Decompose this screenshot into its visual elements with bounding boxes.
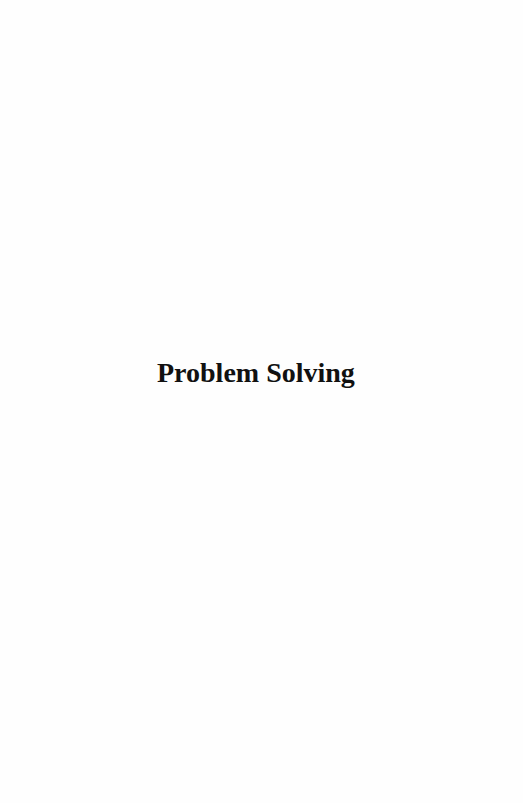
section-title: Problem Solving <box>157 356 355 390</box>
document-page: Problem Solving <box>0 0 523 803</box>
